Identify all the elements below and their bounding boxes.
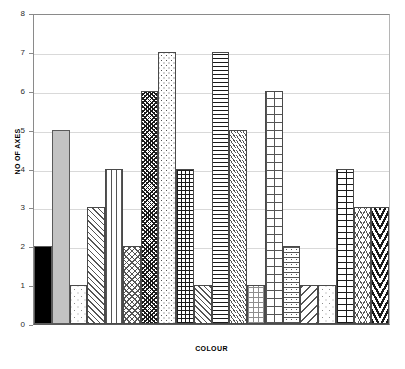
y-tick-label-8: 8 bbox=[21, 10, 25, 18]
y-tick-mark-0 bbox=[29, 325, 33, 326]
y-tick-label-4: 4 bbox=[21, 166, 25, 174]
bar-19 bbox=[354, 207, 372, 324]
y-tick-label-7: 7 bbox=[21, 49, 25, 57]
bar-20 bbox=[371, 207, 389, 324]
bar-series bbox=[34, 15, 389, 324]
bar-10 bbox=[194, 285, 212, 324]
bar-6 bbox=[123, 246, 141, 324]
bar-14 bbox=[265, 91, 283, 324]
y-tick-label-3: 3 bbox=[21, 204, 25, 212]
bar-16 bbox=[300, 285, 318, 324]
bar-11 bbox=[212, 52, 230, 324]
bar-15 bbox=[283, 246, 301, 324]
y-tick-label-2: 2 bbox=[21, 243, 25, 251]
plot-area bbox=[33, 14, 390, 325]
bar-8 bbox=[158, 52, 176, 324]
bar-13 bbox=[247, 285, 265, 324]
y-tick-label-1: 1 bbox=[21, 282, 25, 290]
y-axis-tick-labels: 012345678 bbox=[0, 0, 30, 369]
y-tick-label-6: 6 bbox=[21, 88, 25, 96]
y-tick-label-0: 0 bbox=[21, 321, 25, 329]
bar-7 bbox=[141, 91, 159, 324]
y-tick-label-5: 5 bbox=[21, 127, 25, 135]
bar-9 bbox=[176, 169, 194, 325]
bar-12 bbox=[229, 130, 247, 324]
bar-chart: NO OF AXES 012345678 COLOUR bbox=[0, 0, 405, 369]
x-axis-title: COLOUR bbox=[33, 345, 390, 352]
bar-18 bbox=[336, 169, 354, 325]
bar-5 bbox=[105, 169, 123, 325]
bar-4 bbox=[87, 207, 105, 324]
bar-2 bbox=[52, 130, 70, 324]
bar-3 bbox=[70, 285, 88, 324]
bar-17 bbox=[318, 285, 336, 324]
bar-1 bbox=[34, 246, 52, 324]
